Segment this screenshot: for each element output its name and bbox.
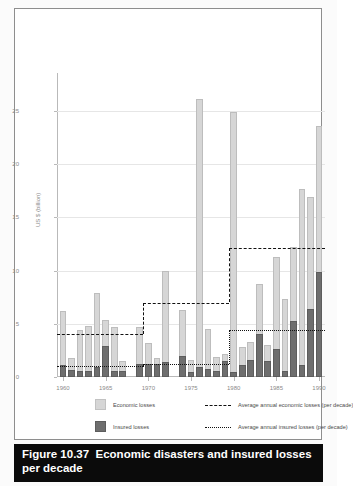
gridline — [57, 111, 325, 112]
bar-insured-losses — [213, 371, 220, 377]
avg-insured-losses-line — [229, 330, 325, 331]
insured-losses-swatch-icon — [95, 421, 106, 432]
bar-insured-losses — [145, 364, 152, 377]
bar-insured-losses — [239, 365, 246, 377]
legend-item-avg-economic: Average annual economic losses (per deca… — [205, 402, 353, 408]
legend-item-economic-losses: Economic losses — [95, 399, 155, 410]
avg-insured-losses-step — [229, 330, 230, 364]
avg-economic-losses-line — [143, 303, 229, 304]
bar-insured-losses — [154, 364, 161, 377]
bar-insured-losses — [68, 370, 75, 377]
x-tick-mark — [63, 377, 64, 381]
bar-insured-losses — [119, 371, 126, 377]
bar-insured-losses — [282, 371, 289, 377]
legend-label-economic-losses: Economic losses — [113, 402, 155, 408]
dashed-line-icon — [205, 405, 231, 406]
x-tick-label: 1990 — [312, 385, 325, 391]
bar-insured-losses — [230, 372, 237, 377]
avg-economic-losses-line — [57, 334, 143, 335]
bar-insured-losses — [94, 367, 101, 377]
bar-insured-losses — [299, 365, 306, 377]
y-tick-label: 10 — [12, 268, 19, 274]
bar-insured-losses — [290, 321, 297, 377]
y-tick-label: 15 — [12, 214, 19, 220]
x-tick-mark — [234, 377, 235, 381]
avg-insured-losses-step — [143, 364, 144, 366]
bar-insured-losses — [102, 346, 109, 377]
bar-economic-losses — [196, 99, 203, 377]
x-tick-mark — [191, 377, 192, 381]
x-tick-label: 1960 — [56, 385, 69, 391]
y-axis-line — [57, 73, 58, 377]
x-tick-label: 1970 — [142, 385, 155, 391]
y-tick-mark — [54, 377, 57, 378]
bar-economic-losses — [299, 189, 306, 377]
gridline — [57, 164, 325, 165]
chart-frame: US $ (billion) 0510152025196019651970197… — [14, 8, 322, 440]
y-tick-mark — [54, 324, 57, 325]
bar-insured-losses — [188, 372, 195, 377]
bar-insured-losses — [205, 369, 212, 378]
legend-label-avg-insured: Average annual insured losses (per decad… — [238, 424, 348, 430]
legend-item-avg-insured: Average annual insured losses (per decad… — [205, 424, 348, 430]
plot-inner: 05101520251960196519701975198019851990 — [57, 79, 325, 377]
legend-label-avg-economic: Average annual economic losses (per deca… — [238, 402, 353, 408]
x-tick-mark — [148, 377, 149, 381]
figure-number: Figure 10.37 — [22, 448, 89, 460]
x-tick-label: 1980 — [227, 385, 240, 391]
chart-legend: Economic losses Insured losses Average a… — [29, 393, 337, 443]
bar-insured-losses — [307, 309, 314, 377]
bar-economic-losses — [162, 271, 169, 377]
bar-insured-losses — [196, 367, 203, 377]
y-tick-label: 5 — [16, 321, 19, 327]
bar-insured-losses — [77, 371, 84, 377]
x-tick-label: 1965 — [99, 385, 112, 391]
y-tick-mark — [54, 271, 57, 272]
bar-insured-losses — [316, 272, 323, 377]
y-tick-label: 0 — [16, 374, 19, 380]
x-tick-label: 1985 — [270, 385, 283, 391]
bar-insured-losses — [179, 356, 186, 377]
legend-item-insured-losses: Insured losses — [95, 421, 149, 432]
y-tick-mark — [54, 164, 57, 165]
avg-insured-losses-line — [57, 366, 143, 367]
avg-economic-losses-step — [143, 303, 144, 335]
y-tick-mark — [54, 217, 57, 218]
bar-insured-losses — [264, 361, 271, 377]
x-tick-label: 1975 — [184, 385, 197, 391]
bar-insured-losses — [247, 360, 254, 377]
bar-insured-losses — [256, 334, 263, 377]
gridline — [57, 271, 325, 272]
bar-insured-losses — [111, 371, 118, 377]
x-tick-mark — [276, 377, 277, 381]
bar-economic-losses — [282, 299, 289, 377]
avg-economic-losses-line — [229, 248, 325, 249]
dotted-line-icon — [205, 427, 231, 428]
figure-caption: Figure 10.37 Economic disasters and insu… — [14, 444, 323, 482]
y-tick-label: 20 — [12, 161, 19, 167]
bar-economic-losses — [230, 112, 237, 377]
y-tick-label: 25 — [12, 108, 19, 114]
bar-insured-losses — [85, 371, 92, 377]
y-axis-title: US $ (billion) — [35, 193, 41, 227]
bar-insured-losses — [273, 349, 280, 377]
avg-insured-losses-line — [143, 364, 229, 365]
avg-economic-losses-step — [229, 248, 230, 302]
y-tick-mark — [54, 111, 57, 112]
x-tick-mark — [319, 377, 320, 381]
gridline — [57, 217, 325, 218]
x-tick-mark — [106, 377, 107, 381]
economic-losses-swatch-icon — [95, 399, 106, 410]
legend-label-insured-losses: Insured losses — [113, 424, 149, 430]
plot-area: 05101520251960196519701975198019851990 — [57, 79, 325, 377]
